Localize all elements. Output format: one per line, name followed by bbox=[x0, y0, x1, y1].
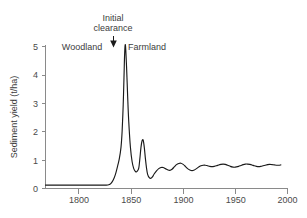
annotation-initial-clearance-line2: clearance bbox=[93, 23, 132, 33]
x-tick-label-1950: 1950 bbox=[226, 195, 246, 205]
y-tick-label-4: 4 bbox=[33, 70, 38, 80]
x-tick-label-2000: 2000 bbox=[277, 195, 297, 205]
chart-figure: 5 4 3 2 1 0 1800 1850 1900 1950 2000 Sed… bbox=[0, 0, 307, 218]
y-axis-title: Sediment yield (t/ha) bbox=[9, 76, 19, 159]
y-tick-label-1: 1 bbox=[33, 156, 38, 166]
sediment-yield-line-chart: 5 4 3 2 1 0 1800 1850 1900 1950 2000 Sed… bbox=[0, 0, 307, 218]
x-axis-ticks bbox=[79, 189, 288, 194]
y-tick-label-2: 2 bbox=[33, 127, 38, 137]
x-tick-label-1800: 1800 bbox=[69, 195, 89, 205]
y-tick-label-5: 5 bbox=[33, 42, 38, 52]
annotation-woodland: Woodland bbox=[62, 42, 102, 52]
y-tick-label-3: 3 bbox=[33, 99, 38, 109]
data-series-sediment-yield bbox=[46, 45, 281, 186]
y-tick-label-0: 0 bbox=[33, 184, 38, 194]
down-arrow-icon bbox=[110, 36, 117, 48]
x-tick-label-1850: 1850 bbox=[121, 195, 141, 205]
y-axis-ticks bbox=[42, 47, 46, 189]
annotation-farmland: Farmland bbox=[128, 42, 166, 52]
annotation-initial-clearance-line1: Initial bbox=[102, 13, 123, 23]
x-tick-label-1900: 1900 bbox=[173, 195, 193, 205]
